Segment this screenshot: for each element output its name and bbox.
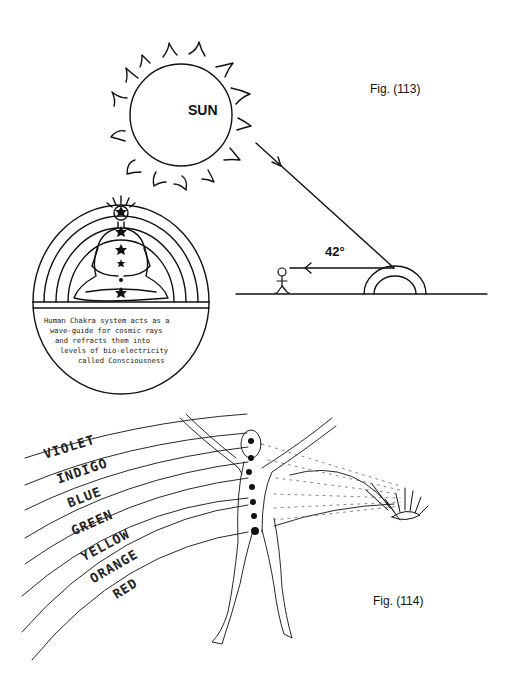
caption-line: Human Chakra system acts as a [44, 316, 204, 326]
body-chakras [246, 438, 259, 535]
rainbow-arc-outer [364, 266, 426, 294]
angle-label: 42° [325, 244, 345, 259]
figure-113-caption: Fig. (113) [370, 82, 420, 96]
rainbow-arc-inner [374, 276, 416, 294]
sun-label: SUN [188, 102, 218, 118]
caption-line: levels of bio-electricity [44, 346, 204, 356]
observer-figure [275, 268, 289, 293]
caption-line: wave-guide for cosmic rays [44, 326, 204, 336]
chakra-caption: Human Chakra system acts as a wave-guide… [44, 316, 204, 366]
sun-drawing [111, 42, 251, 190]
vitruvian-figure [180, 414, 400, 644]
rising-sun [366, 484, 428, 520]
figure-114-caption: Fig. (114) [373, 594, 423, 608]
caption-line: called Consciousness [44, 356, 204, 366]
dotted-rays [262, 444, 400, 520]
caption-line: and refracts them into [44, 336, 204, 346]
